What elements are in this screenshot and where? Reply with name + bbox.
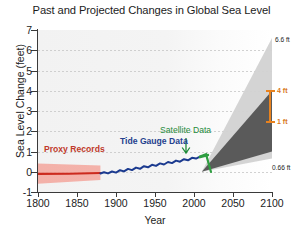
range-marker-top-cap — [266, 90, 275, 92]
x-tick-label-1850: 1850 — [57, 197, 97, 209]
x-tick-label-1950: 1950 — [135, 197, 175, 209]
y-tick-label-7: 7 — [6, 24, 32, 36]
tide-gauge-label: Tide Gauge Data — [120, 136, 188, 146]
sea-level-chart: Past and Projected Changes in Global Sea… — [0, 0, 303, 236]
proxy-records-label: Proxy Records — [44, 144, 105, 154]
x-tick-label-2000: 2000 — [174, 197, 214, 209]
chart-title: Past and Projected Changes in Global Sea… — [0, 4, 303, 16]
satellite-data-label: Satellite Data — [160, 125, 211, 135]
likely-lower-label: 1 ft — [277, 118, 288, 125]
proxy-records-line — [38, 173, 100, 174]
y-tick-label-3: 3 — [6, 105, 32, 117]
y-tick-label-0: 0 — [6, 166, 32, 178]
x-tick-label-1800: 1800 — [18, 197, 58, 209]
projection-range-marker — [269, 91, 271, 122]
chart-series-svg — [38, 30, 272, 192]
x-tick-label-1900: 1900 — [96, 197, 136, 209]
lower-bound-label: 0.66 ft — [272, 164, 290, 171]
y-axis-line — [37, 29, 38, 193]
range-marker-bottom-cap — [266, 121, 275, 123]
likely-upper-label: 4 ft — [277, 87, 288, 94]
x-tick-label-2100: 2100 — [252, 197, 292, 209]
plot-area: Proxy Records Tide Gauge Data Satellite … — [38, 30, 272, 192]
tide-gauge-line — [100, 157, 200, 174]
x-axis-label: Year — [38, 214, 272, 226]
y-tick-label-1: 1 — [6, 146, 32, 158]
y-tick-label-5: 5 — [6, 65, 32, 77]
upper-bound-label: 6.6 ft — [275, 36, 290, 43]
y-tick-label-4: 4 — [6, 85, 32, 97]
x-tick-label-2050: 2050 — [213, 197, 253, 209]
y-tick-label-6: 6 — [6, 44, 32, 56]
y-tick-label-2: 2 — [6, 125, 32, 137]
